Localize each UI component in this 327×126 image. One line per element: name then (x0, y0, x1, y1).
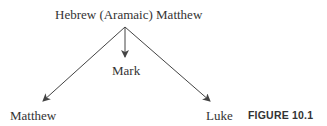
node-matthew: Matthew (10, 109, 56, 122)
node-luke: Luke (206, 109, 233, 122)
figure-caption: FIGURE 10.1 (248, 110, 313, 121)
node-mark: Mark (112, 64, 140, 77)
source-node-hebrew-matthew: Hebrew (Aramaic) Matthew (55, 8, 202, 21)
